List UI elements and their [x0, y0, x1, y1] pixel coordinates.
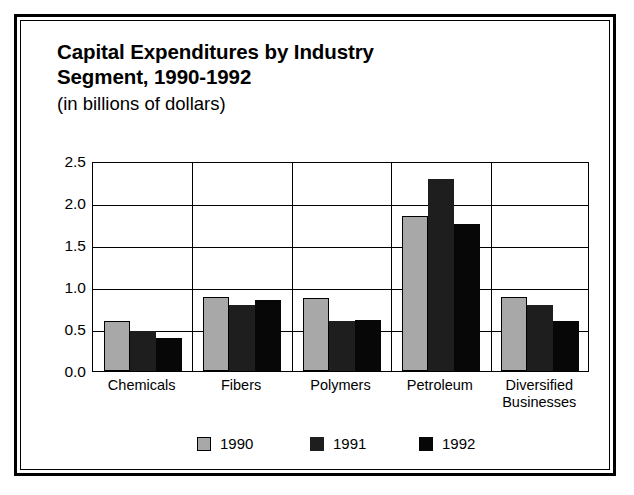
legend-swatch-icon: [310, 437, 324, 451]
legend-entry-1992[interactable]: 1992: [419, 436, 475, 451]
x-tick-label: Fibers: [191, 377, 290, 394]
x-tick-label: Chemicals: [92, 377, 191, 394]
legend-swatch-icon: [197, 437, 211, 451]
y-tick-label: 0.0: [46, 365, 86, 379]
x-axis: ChemicalsFibersPolymersPetroleumDiversif…: [92, 377, 589, 417]
x-tick-label-line: Chemicals: [92, 377, 191, 394]
x-tick-label-line: Polymers: [291, 377, 390, 394]
bar-diversified-businesses-1991: [527, 305, 553, 371]
x-tick-label-line: Fibers: [191, 377, 290, 394]
legend-entry-1991[interactable]: 1991: [310, 436, 366, 451]
bar-diversified-businesses-1992: [553, 321, 579, 371]
plot-area: [92, 162, 589, 372]
bar-polymers-1992: [355, 320, 381, 371]
bar-polymers-1990: [303, 298, 329, 371]
legend-label: 1992: [442, 436, 475, 451]
y-tick-label: 1.5: [46, 239, 86, 253]
x-tick-label-line: Diversified: [490, 377, 589, 394]
x-tick-label-line: Petroleum: [390, 377, 489, 394]
bar-fibers-1992: [255, 300, 281, 371]
y-tick-label: 0.5: [46, 323, 86, 337]
x-tick-label: Petroleum: [390, 377, 489, 394]
legend-label: 1991: [333, 436, 366, 451]
bar-petroleum-1990: [402, 216, 428, 371]
bar-diversified-businesses-1990: [501, 297, 527, 371]
legend-entry-1990[interactable]: 1990: [197, 436, 253, 451]
chart-title: Capital Expenditures by Industry Segment…: [57, 39, 487, 89]
y-tick-label: 1.0: [46, 281, 86, 295]
bar-chemicals-1992: [156, 338, 182, 371]
x-tick-label: DiversifiedBusinesses: [490, 377, 589, 411]
y-tick-label: 2.5: [46, 155, 86, 169]
legend-label: 1990: [220, 436, 253, 451]
legend-swatch-icon: [419, 437, 433, 451]
chart-title-line-1: Capital Expenditures by Industry: [57, 40, 374, 63]
figure-outer-frame: Capital Expenditures by Industry Segment…: [14, 14, 616, 476]
bar-petroleum-1991: [428, 179, 454, 371]
bar-chemicals-1990: [104, 321, 130, 371]
chart-title-line-2: Segment, 1990-1992: [57, 65, 251, 88]
bars-layer: [93, 163, 588, 371]
y-tick-label: 2.0: [46, 197, 86, 211]
bar-fibers-1991: [229, 305, 255, 371]
bar-fibers-1990: [203, 297, 229, 371]
bar-petroleum-1992: [454, 224, 480, 371]
bar-polymers-1991: [329, 321, 355, 371]
y-axis: 0.00.51.01.52.02.5: [38, 162, 86, 372]
figure-inner-frame: Capital Expenditures by Industry Segment…: [20, 20, 610, 470]
bar-chemicals-1991: [130, 331, 156, 371]
x-tick-label: Polymers: [291, 377, 390, 394]
chart-subtitle: (in billions of dollars): [57, 93, 226, 115]
x-tick-label-line: Businesses: [490, 394, 589, 411]
chart-legend: 199019911992: [197, 436, 467, 458]
chart-figure: Capital Expenditures by Industry Segment…: [21, 21, 609, 469]
